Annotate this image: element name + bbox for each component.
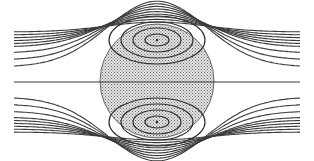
vortex-center-dot [156,39,158,41]
flow-diagram [0,0,314,161]
vortex-center-dot [156,121,158,123]
